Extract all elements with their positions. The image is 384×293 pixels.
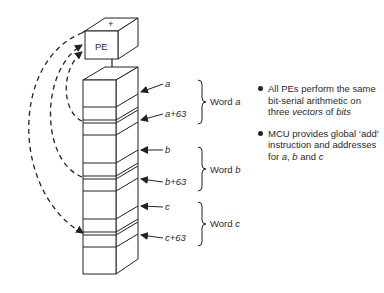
brace-word-c [198,202,206,246]
address-label-c63: c+63 [165,232,187,243]
dashed-arrow-a [66,52,82,121]
address-arrows [141,84,163,238]
word-label-a: Word a [210,96,240,107]
pe-label: PE [95,41,108,52]
arrow-c [141,206,163,207]
dashed-feedback-arrows [29,31,85,233]
brace-word-a [198,80,206,124]
memory-column [83,67,138,274]
bullet-icon [258,86,263,91]
word-braces [198,80,206,246]
address-label-a: a [165,78,170,89]
word-label-c: Word c [210,218,240,229]
brace-word-b [198,147,206,191]
arrow-b63 [141,179,163,182]
word-label-b: Word b [210,164,240,175]
arrow-a [141,84,163,92]
note-item: MCU provides global ‘add’ instruction an… [256,128,384,163]
address-label-c: c [165,201,170,212]
notes-list: All PEs perform the same bit-serial arit… [256,83,384,172]
pe-plus-symbol: + [108,18,114,29]
address-label-a63: a+63 [165,108,187,119]
address-label-b63: b+63 [165,176,187,187]
note-item: All PEs perform the same bit-serial arit… [256,83,384,118]
arrow-c63 [141,235,163,238]
dashed-arrow-b [51,45,83,177]
bullet-icon [258,131,263,136]
arrow-a63 [141,114,163,120]
dashed-arrow-c [29,33,82,233]
address-label-b: b [165,144,170,155]
